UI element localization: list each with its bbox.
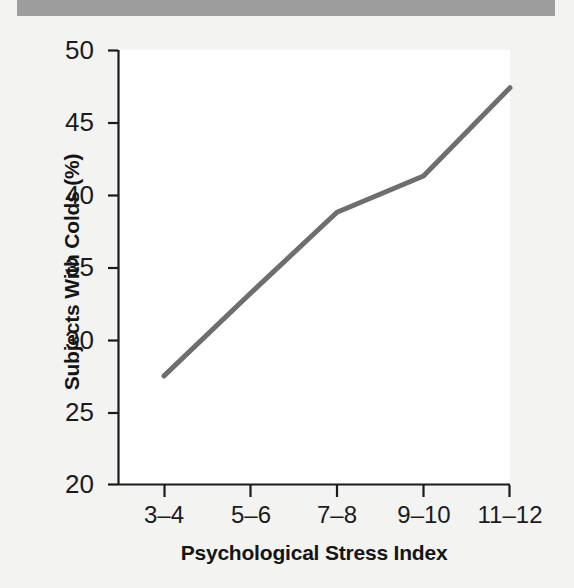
y-axis-ticks (108, 51, 118, 485)
line-chart (0, 0, 574, 588)
y-axis-title: Subjects With Colds (%) (60, 72, 84, 472)
x-axis-ticks (165, 485, 510, 497)
x-tick-label-11-12: 11–12 (455, 503, 565, 527)
y-tick-label-50: 50 (34, 37, 94, 63)
figure-container: 50 45 40 35 30 25 20 3–4 5–6 7–8 9–10 11… (0, 0, 574, 588)
y-tick-label-20: 20 (34, 471, 94, 497)
data-line-series-1 (164, 88, 510, 376)
x-axis-title: Psychological Stress Index (118, 541, 510, 565)
